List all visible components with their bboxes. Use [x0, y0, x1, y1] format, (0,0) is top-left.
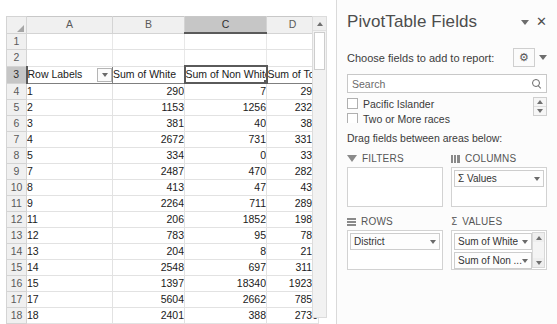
cell-a2[interactable]	[27, 50, 113, 67]
white-cell[interactable]: 2264	[113, 196, 185, 212]
white-cell[interactable]: 206	[113, 212, 185, 228]
row-header-12[interactable]: 12	[7, 212, 27, 228]
row-header-7[interactable]: 7	[7, 132, 27, 148]
column-header-b[interactable]: B	[113, 17, 185, 34]
non-white-cell[interactable]: 470	[185, 164, 267, 180]
row-header-11[interactable]: 11	[7, 196, 27, 212]
field-chip-values[interactable]: Σ Values	[454, 170, 544, 187]
column-header-c[interactable]: C	[185, 17, 267, 34]
total-cell[interactable]: 2327	[267, 100, 319, 116]
row-label-cell[interactable]: 9	[27, 196, 113, 212]
scroll-down-button[interactable]	[533, 258, 544, 267]
row-labels-filter-button[interactable]	[97, 68, 112, 82]
column-header-a[interactable]: A	[27, 17, 113, 34]
white-cell[interactable]: 783	[113, 228, 185, 244]
row-label-cell[interactable]: 18	[27, 308, 113, 324]
row-label-cell[interactable]: 15	[27, 276, 113, 292]
select-all-corner[interactable]	[7, 17, 27, 34]
checkbox[interactable]	[347, 98, 358, 109]
checkbox[interactable]	[347, 113, 358, 123]
cell-a3-row-labels[interactable]: Row Labels	[27, 66, 113, 83]
row-header-3[interactable]: 3	[7, 66, 27, 83]
field-chip-sum-of-non-white[interactable]: Sum of Non ...	[454, 252, 532, 269]
non-white-cell[interactable]: 47	[185, 180, 267, 196]
cell-d3-sum-of-total[interactable]: Sum of Total	[267, 66, 319, 83]
cell-c2[interactable]	[185, 50, 267, 67]
row-label-cell[interactable]: 5	[27, 148, 113, 164]
area-filters-dropzone[interactable]	[347, 167, 443, 207]
row-header-18[interactable]: 18	[7, 308, 27, 324]
field-list[interactable]: Pacific Islander Two or More races	[347, 96, 547, 123]
scroll-up-button[interactable]	[533, 233, 544, 242]
row-label-cell[interactable]: 4	[27, 132, 113, 148]
white-cell[interactable]: 334	[113, 148, 185, 164]
gear-icon[interactable]: ⚙	[513, 48, 535, 67]
search-box[interactable]	[347, 74, 547, 93]
row-header-2[interactable]: 2	[7, 50, 27, 67]
row-label-cell[interactable]: 7	[27, 164, 113, 180]
cell-c1[interactable]	[185, 33, 267, 50]
search-input[interactable]	[352, 78, 532, 90]
row-header-13[interactable]: 13	[7, 228, 27, 244]
scrollbar-thumb[interactable]	[314, 32, 325, 70]
column-header-d[interactable]: D	[267, 17, 319, 34]
field-chip-sum-of-white[interactable]: Sum of White	[454, 233, 532, 250]
non-white-cell[interactable]: 40	[185, 116, 267, 132]
chevron-down-icon[interactable]	[522, 259, 528, 263]
white-cell[interactable]: 1153	[113, 100, 185, 116]
total-cell[interactable]: 19236	[267, 276, 319, 292]
row-header-16[interactable]: 16	[7, 276, 27, 292]
total-cell[interactable]: 2730	[267, 308, 319, 324]
non-white-cell[interactable]: 18340	[185, 276, 267, 292]
row-header-14[interactable]: 14	[7, 244, 27, 260]
row-label-cell[interactable]: 11	[27, 212, 113, 228]
row-label-cell[interactable]: 12	[27, 228, 113, 244]
chevron-down-icon[interactable]	[430, 240, 436, 244]
white-cell[interactable]: 5604	[113, 292, 185, 308]
field-item-two-or-more-races[interactable]: Two or More races	[347, 111, 547, 123]
cell-d2[interactable]	[267, 50, 319, 67]
non-white-cell[interactable]: 7	[185, 83, 267, 100]
non-white-cell[interactable]: 1256	[185, 100, 267, 116]
total-cell[interactable]: 435	[267, 180, 319, 196]
white-cell[interactable]: 2548	[113, 260, 185, 276]
total-cell[interactable]: 3119	[267, 260, 319, 276]
white-cell[interactable]: 413	[113, 180, 185, 196]
row-header-6[interactable]: 6	[7, 116, 27, 132]
row-header-1[interactable]: 1	[7, 33, 27, 50]
cell-c3-sum-of-non-white[interactable]: Sum of Non White	[185, 66, 267, 83]
total-cell[interactable]: 387	[267, 116, 319, 132]
tools-chevron-down-icon[interactable]	[539, 55, 547, 60]
non-white-cell[interactable]: 1852	[185, 212, 267, 228]
row-header-15[interactable]: 15	[7, 260, 27, 276]
total-cell[interactable]: 1986	[267, 212, 319, 228]
row-label-cell[interactable]: 2	[27, 100, 113, 116]
row-label-cell[interactable]: 13	[27, 244, 113, 260]
non-white-cell[interactable]: 697	[185, 260, 267, 276]
area-rows-dropzone[interactable]: District	[347, 230, 443, 270]
chevron-down-icon[interactable]	[522, 240, 528, 244]
white-cell[interactable]: 2401	[113, 308, 185, 324]
row-label-cell[interactable]: 3	[27, 116, 113, 132]
row-header-4[interactable]: 4	[7, 83, 27, 100]
row-label-cell[interactable]: 8	[27, 180, 113, 196]
total-cell[interactable]: 789	[267, 228, 319, 244]
white-cell[interactable]: 381	[113, 116, 185, 132]
row-header-5[interactable]: 5	[7, 100, 27, 116]
row-header-17[interactable]: 17	[7, 292, 27, 308]
cell-b2[interactable]	[113, 50, 185, 67]
total-cell[interactable]: 2899	[267, 196, 319, 212]
non-white-cell[interactable]: 95	[185, 228, 267, 244]
total-cell[interactable]: 3314	[267, 132, 319, 148]
white-cell[interactable]: 290	[113, 83, 185, 100]
total-cell[interactable]: 2824	[267, 164, 319, 180]
values-scrollbar[interactable]	[532, 232, 545, 268]
row-label-cell[interactable]: 1	[27, 83, 113, 100]
field-item-pacific-islander[interactable]: Pacific Islander	[347, 96, 547, 111]
white-cell[interactable]: 2487	[113, 164, 185, 180]
scroll-up-button[interactable]	[313, 17, 326, 31]
non-white-cell[interactable]: 8	[185, 244, 267, 260]
white-cell[interactable]: 1397	[113, 276, 185, 292]
spinner-up-button[interactable]	[534, 98, 546, 106]
total-cell[interactable]: 290	[267, 83, 319, 100]
